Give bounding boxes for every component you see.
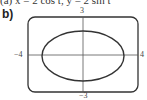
x-max-label: 4 <box>140 50 144 59</box>
x-min-label: −4 <box>14 50 23 59</box>
y-max-label: 3 <box>80 6 84 15</box>
y-min-label: −3 <box>79 91 88 100</box>
